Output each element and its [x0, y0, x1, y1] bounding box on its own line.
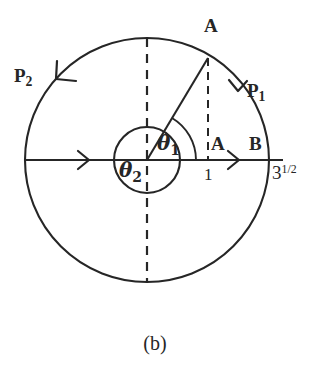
label-theta2: θ2 [119, 160, 142, 184]
label-a-axis: A [211, 134, 225, 153]
label-b: B [249, 134, 262, 153]
label-sqrt3: 31/2 [272, 163, 297, 182]
circle-diagram [0, 0, 310, 371]
figure-caption: (b) [0, 332, 310, 355]
label-a-top: A [204, 16, 218, 35]
figure-container: P2 P1 A A B 1 31/2 θ1 θ2 (b) [0, 0, 310, 371]
p1-direction-arrow-icon [229, 80, 247, 91]
label-unit-distance: 1 [204, 166, 213, 183]
label-theta1: θ1 [157, 133, 180, 157]
label-p2: P2 [14, 66, 32, 89]
label-p1: P1 [247, 81, 265, 104]
